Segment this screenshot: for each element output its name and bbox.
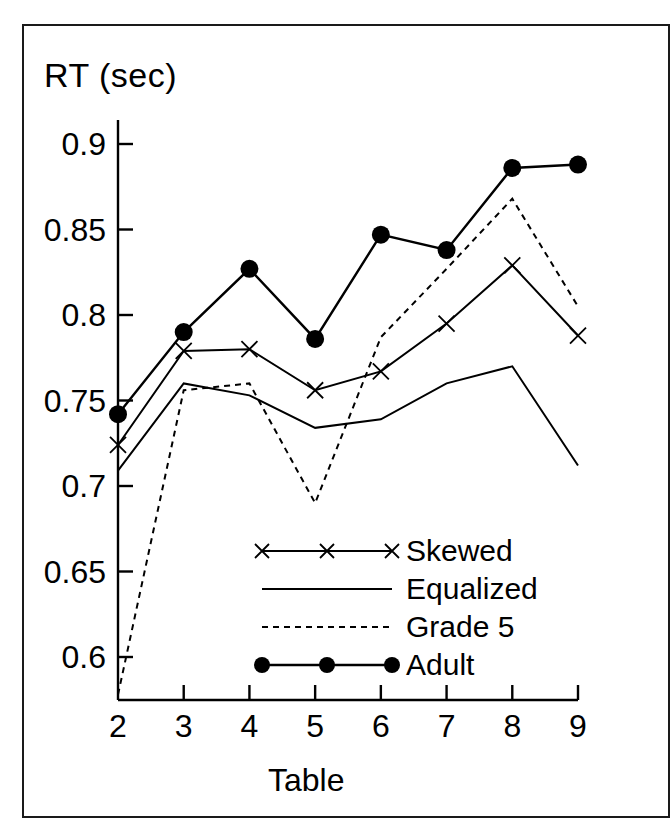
- x-marker-icon: [373, 363, 389, 379]
- dot-marker-icon: [438, 241, 456, 259]
- dot-marker-icon: [372, 226, 390, 244]
- legend-swatches: [254, 544, 400, 673]
- dot-marker-icon: [254, 657, 270, 673]
- dot-marker-icon: [503, 159, 521, 177]
- tick-marks: [118, 144, 578, 700]
- series-grade-5: [118, 199, 578, 695]
- x-marker-icon: [570, 328, 586, 344]
- series-adult: [109, 156, 587, 424]
- dot-marker-icon: [384, 657, 400, 673]
- series-line: [118, 165, 578, 415]
- series-equalized: [118, 366, 578, 470]
- x-marker-icon: [504, 257, 520, 273]
- x-marker-icon: [439, 316, 455, 332]
- dot-marker-icon: [569, 156, 587, 174]
- series-line: [118, 199, 578, 695]
- dot-marker-icon: [240, 260, 258, 278]
- series-layer: [109, 156, 587, 695]
- x-marker-icon: [307, 382, 323, 398]
- axis-lines: [118, 120, 578, 700]
- dot-marker-icon: [306, 330, 324, 348]
- dot-marker-icon: [319, 657, 335, 673]
- dot-marker-icon: [175, 323, 193, 341]
- series-line: [118, 366, 578, 470]
- dot-marker-icon: [109, 405, 127, 423]
